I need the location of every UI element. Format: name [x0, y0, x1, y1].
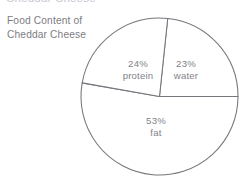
pie-label-percent-water: 23% — [176, 58, 196, 69]
figure-root: Cheddar Cheese Food Content of Cheddar C… — [0, 0, 250, 185]
pie-slice-water — [160, 18, 239, 96]
pie-label-name-fat: fat — [150, 127, 161, 138]
pie-label-water: 23%water — [173, 58, 199, 81]
pie-chart: 23%water53%fat24%protein — [0, 0, 250, 185]
pie-label-name-protein: protein — [123, 70, 154, 81]
pie-label-percent-protein: 24% — [128, 58, 148, 69]
pie-slices-group — [81, 18, 238, 175]
pie-label-percent-fat: 53% — [146, 115, 166, 126]
pie-slice-protein — [82, 18, 168, 97]
pie-label-name-water: water — [173, 70, 199, 81]
